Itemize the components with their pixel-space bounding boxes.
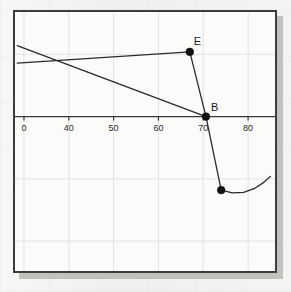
- plot-frame: 04050607080 EB: [13, 10, 277, 273]
- x-axis-tick-label: 0: [21, 123, 26, 133]
- x-axis-tick-label: 50: [109, 123, 119, 133]
- data-series-group: [17, 46, 270, 193]
- x-axis-tick-labels: 04050607080: [21, 123, 253, 133]
- data-series-line: [17, 52, 190, 63]
- data-point-marker: [217, 186, 225, 194]
- data-point-markers: [186, 48, 225, 194]
- data-point-label: B: [211, 101, 218, 113]
- grid-lines: [15, 12, 275, 271]
- data-point-marker: [202, 113, 210, 121]
- figure-page: 04050607080 EB: [0, 0, 291, 292]
- x-axis-tick-label: 60: [153, 123, 163, 133]
- data-point-labels: EB: [194, 35, 218, 113]
- data-series-line: [17, 46, 206, 117]
- data-point-label: E: [194, 35, 201, 47]
- plot-canvas: 04050607080 EB: [15, 12, 275, 271]
- data-point-marker: [186, 48, 194, 56]
- x-axis-tick-label: 80: [243, 123, 253, 133]
- x-axis-tick-label: 40: [64, 123, 74, 133]
- x-axis-tick-label: 70: [198, 123, 208, 133]
